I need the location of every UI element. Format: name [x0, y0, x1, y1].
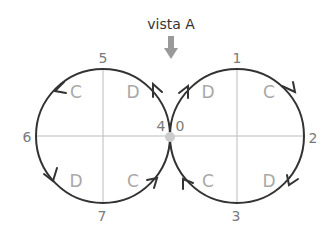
- arrow-icon: [153, 84, 162, 97]
- quadrant-left-br: C: [127, 173, 139, 190]
- quadrant-right-tl: D: [201, 84, 214, 101]
- center-dot: [165, 132, 175, 142]
- quadrant-left-tr: D: [126, 84, 139, 101]
- point-2-label: 2: [309, 131, 318, 145]
- point-3-label: 3: [232, 209, 241, 223]
- quadrant-right-bl: C: [202, 173, 214, 190]
- point-4-label: 4: [157, 119, 166, 133]
- point-1-label: 1: [233, 51, 242, 65]
- view-arrow-icon: [164, 36, 178, 59]
- arrow-icon: [287, 175, 298, 185]
- point-7-label: 7: [98, 209, 107, 223]
- point-6-label: 6: [23, 130, 32, 144]
- quadrant-left-bl: D: [69, 173, 82, 190]
- arrow-icon: [282, 82, 295, 92]
- view-title: vista A: [147, 17, 195, 31]
- figure-eight-diagram: [0, 0, 336, 237]
- point-0-label: 0: [176, 119, 185, 133]
- quadrant-right-br: D: [262, 173, 275, 190]
- quadrant-right-tr: C: [263, 84, 275, 101]
- point-5-label: 5: [99, 51, 108, 65]
- quadrant-left-tl: C: [70, 84, 82, 101]
